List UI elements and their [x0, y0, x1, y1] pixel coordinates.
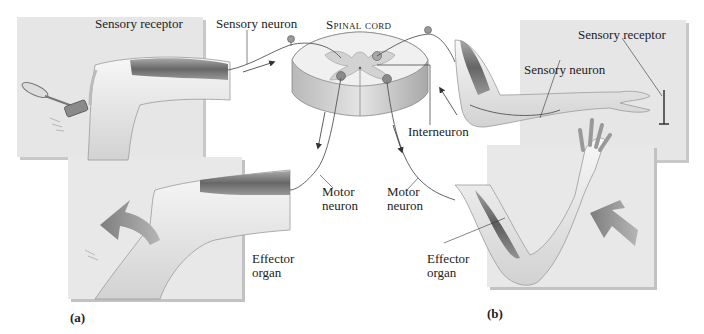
label-b-motor-neuron-line2: neuron	[387, 199, 423, 213]
label-b-effector-line1: Effector	[427, 252, 469, 266]
label-b-sensory-neuron: Sensory neuron	[524, 63, 605, 77]
label-a-effector-line1: Effector	[252, 252, 294, 266]
diagram-artwork	[0, 0, 704, 334]
label-a-motor-neuron-line2: neuron	[322, 199, 358, 213]
caption-a: (a)	[70, 311, 85, 325]
label-a-sensory-receptor: Sensory receptor	[95, 17, 183, 31]
label-interneuron: Interneuron	[408, 125, 469, 139]
label-spinal-cord: Spinal cord	[326, 18, 391, 32]
label-b-effector-line2: organ	[427, 266, 456, 280]
label-b-motor-neuron-line1: Motor	[387, 185, 420, 199]
reflex-diagram: Sensory receptor Sensory neuron Spinal c…	[0, 0, 704, 334]
caption-b: (b)	[487, 307, 503, 321]
label-b-sensory-receptor: Sensory receptor	[578, 28, 666, 42]
label-a-motor-neuron-line1: Motor	[322, 185, 355, 199]
spinal-cord	[292, 32, 428, 116]
label-a-effector-line2: organ	[252, 266, 281, 280]
label-a-sensory-neuron: Sensory neuron	[216, 17, 297, 31]
